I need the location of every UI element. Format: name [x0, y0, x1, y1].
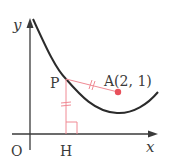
x-axis-label: x — [146, 138, 155, 156]
y-axis-label: y — [12, 16, 22, 34]
point-H-label: H — [60, 143, 72, 159]
parabola-curve — [33, 19, 158, 113]
point-P-label: P — [50, 75, 59, 91]
parabola-diagram: y x O H P A(2, 1) — [0, 0, 171, 163]
origin-label: O — [11, 143, 22, 159]
right-angle-mark — [66, 122, 77, 134]
point-A-label: A(2, 1) — [103, 73, 152, 89]
point-A — [115, 89, 121, 95]
y-axis — [27, 18, 34, 150]
x-axis — [12, 131, 158, 138]
x-axis-arrow-icon — [148, 131, 158, 138]
